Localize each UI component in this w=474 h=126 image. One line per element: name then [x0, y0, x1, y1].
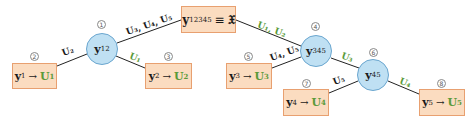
- root-symbol: y: [182, 13, 189, 27]
- index-badge-6: 6: [369, 48, 378, 57]
- root-equals: ≡: [215, 13, 225, 27]
- leaf-node-y1: y1 → U1: [12, 63, 57, 89]
- inner-node-y45: y45: [357, 59, 389, 91]
- inner-node-y345: y345: [300, 35, 332, 67]
- index-badge-3: 3: [164, 52, 173, 61]
- index-badge-8: 8: [437, 79, 446, 88]
- index-badge-2: 2: [30, 52, 39, 61]
- leaf-node-y3: y3 → U3: [226, 63, 272, 89]
- index-badge-5: 5: [244, 52, 253, 61]
- leaf-node-y4: y4 → U4: [283, 89, 329, 116]
- root-node: y12345 ≡ 𝔛: [181, 6, 236, 33]
- index-badge-1: 1: [97, 20, 106, 29]
- inner-node-y12: y12: [86, 33, 118, 65]
- edge-y12-leaf1: [57, 54, 87, 66]
- index-badge-4: 4: [311, 22, 320, 31]
- index-badge-7: 7: [302, 79, 311, 88]
- leaf-node-y5: y5 → U5: [419, 89, 465, 116]
- root-rhs: 𝔛: [228, 13, 235, 27]
- root-subscript: 12345: [189, 16, 211, 24]
- leaf-node-y2: y2 → U2: [145, 63, 192, 89]
